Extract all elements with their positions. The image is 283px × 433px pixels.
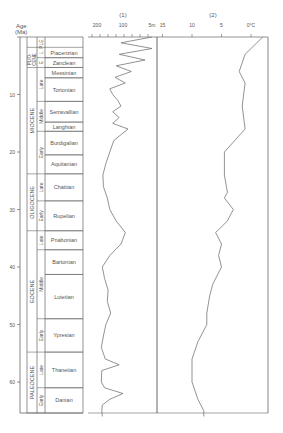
stage-label: Zanclean (53, 60, 76, 66)
epoch-label: MIOCENE (29, 107, 35, 133)
panel2-label: (2) (209, 12, 216, 18)
subepoch-label: Early (38, 394, 44, 406)
stage-label: Serravallian (49, 109, 78, 115)
stage-label: Aquitanian (51, 161, 77, 167)
stage-label: Piacenzian (51, 50, 78, 56)
stratigraphic-column (20, 37, 83, 413)
stage-label: Danian (55, 397, 72, 403)
chart-figure: Age(Ma)102030405060PLEPLIO-CENEMIOCENEOL… (0, 0, 283, 433)
subepoch-label: Late (38, 235, 44, 245)
subepoch-label: Late (38, 365, 44, 375)
stage-label: Tortonian (53, 87, 76, 93)
stage-label: Priabonian (51, 237, 77, 243)
subepoch-label: Early (38, 210, 44, 222)
age-unit: (Ma) (15, 29, 27, 35)
y-tick-label: 20 (9, 149, 15, 155)
panel2-tick-label: 0°C (247, 22, 256, 28)
subepoch-label: Late (38, 79, 44, 89)
subepoch-label: Early (38, 329, 44, 341)
stage-label: Thanetian (52, 367, 76, 373)
subepoch-label: E (38, 60, 44, 64)
epoch-label: OLIGOCENE (29, 186, 35, 219)
stage-label: Langhian (53, 124, 76, 130)
stage-label: Burdigalian (50, 140, 78, 146)
y-tick-label: 10 (9, 92, 15, 98)
y-tick-label: 40 (9, 264, 15, 270)
stage-label: Chattian (54, 184, 75, 190)
panel2-tick-label: 10 (189, 22, 195, 28)
panel2-tick-label: 5 (220, 22, 223, 28)
subepoch-label: Late (38, 182, 44, 192)
subepoch-label: Early (38, 146, 44, 158)
stage-label: Rupelian (53, 213, 75, 219)
subepoch-label: Middle (38, 277, 44, 292)
panel1-label: (1) (119, 12, 126, 18)
sea-level-curve (101, 37, 152, 417)
subepoch-label: Middle (38, 109, 44, 124)
panel1-tick-label: 100 (119, 22, 128, 28)
epoch-label: PALEOCENE (29, 366, 35, 400)
y-tick-label: 30 (9, 207, 15, 213)
y-tick-label: 50 (9, 322, 15, 328)
temperature-curve (192, 37, 263, 417)
stage-label: Lutetian (54, 294, 74, 300)
epoch-label: EOCENE (29, 279, 35, 303)
stage-label: Ypresian (53, 332, 74, 338)
stage-label: Messinian (52, 70, 77, 76)
y-tick-label: 60 (9, 379, 15, 385)
subepoch-label: L (38, 51, 44, 54)
panel1-tick-label: 5m (149, 22, 156, 28)
panel1-tick-label: 200 (93, 22, 102, 28)
epoch-label: CENE (32, 53, 37, 66)
stage-label: Bartonian (52, 259, 76, 265)
panel2-tick-label: 15 (160, 22, 166, 28)
